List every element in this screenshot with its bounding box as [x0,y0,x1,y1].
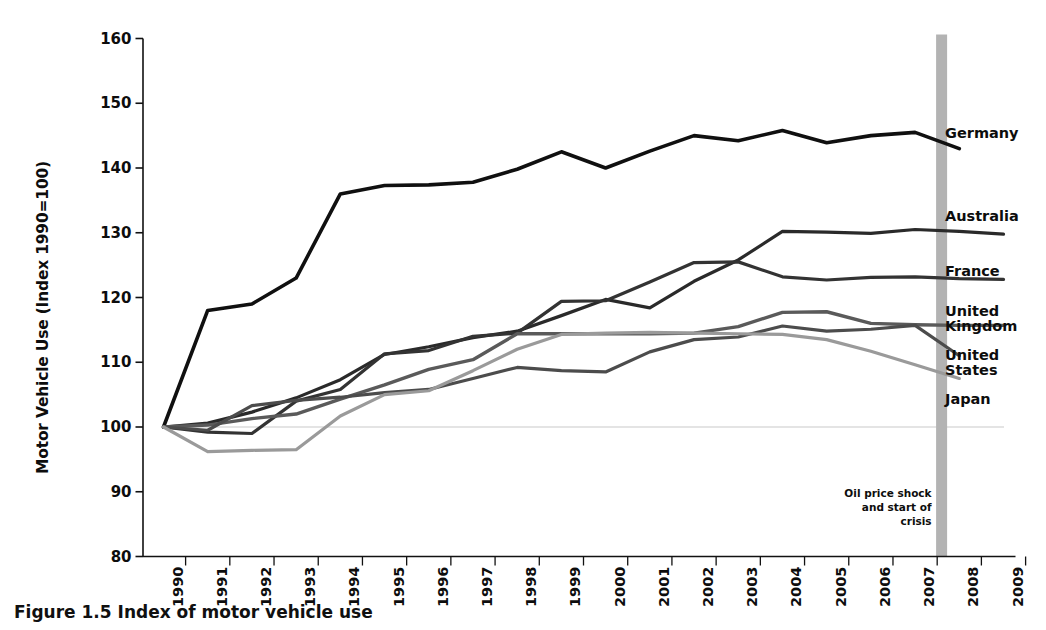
x-tick-label: 1994 [346,566,362,606]
series-line-france [164,262,1004,434]
x-tick-label: 2004 [788,566,804,606]
x-tick-label: 2000 [612,566,628,606]
x-tick-label: 2003 [744,566,760,606]
x-tick-label: 1990 [170,566,186,606]
x-tick-label: 1998 [523,566,539,606]
x-tick-label: 1999 [567,566,583,606]
annotation-line: crisis [792,515,932,529]
y-tick-label: 90 [92,483,132,501]
series-label-line: States [945,363,999,378]
series-label-united-kingdom: UnitedKingdom [945,304,1017,335]
y-tick-label: 130 [92,224,132,242]
y-axis-title: Motor Vehicle Use (Index 1990=100) [34,161,52,474]
series-label-line: Australia [945,209,1019,224]
series-label-line: Germany [945,126,1019,141]
x-tick-label: 1992 [258,566,274,606]
x-tick-label: 1991 [214,566,230,606]
series-label-line: Kingdom [945,319,1017,334]
y-tick-label: 100 [92,418,132,436]
annotation-line: Oil price shock [792,487,932,501]
figure-container: Motor Vehicle Use (Index 1990=100) 80901… [0,0,1046,630]
x-tick-label: 1997 [479,566,495,606]
series-label-france: France [945,264,1000,279]
y-tick-label: 140 [92,159,132,177]
y-tick-label: 150 [92,94,132,112]
annotation-line: and start of [792,501,932,515]
y-tick-label: 80 [92,548,132,566]
series-label-united-states: UnitedStates [945,348,999,379]
y-tick-label: 160 [92,30,132,48]
series-label-line: Japan [945,392,991,407]
x-tick-label: 2006 [877,566,893,606]
x-tick-label: 2008 [965,566,981,606]
x-tick-label: 2007 [921,566,937,606]
annotation-oil-price-shock: Oil price shockand start ofcrisis [792,487,932,529]
x-tick-label: 1996 [435,566,451,606]
x-tick-label: 1993 [302,566,318,606]
figure-caption: Figure 1.5 Index of motor vehicle use [14,602,444,628]
series-label-germany: Germany [945,126,1019,141]
series-label-australia: Australia [945,209,1019,224]
series-label-line: United [945,348,999,363]
x-tick-label: 2009 [1010,566,1026,606]
series-line-japan [164,332,960,451]
y-tick-label: 120 [92,289,132,307]
x-tick-label: 2002 [700,566,716,606]
series-label-japan: Japan [945,392,991,407]
oil-shock-band [936,35,947,557]
y-tick-label: 110 [92,353,132,371]
series-label-line: United [945,304,1017,319]
x-tick-label: 2001 [656,566,672,606]
series-label-line: France [945,264,1000,279]
x-tick-label: 1995 [391,566,407,606]
x-tick-label: 2005 [833,566,849,606]
line-chart [0,0,1046,630]
